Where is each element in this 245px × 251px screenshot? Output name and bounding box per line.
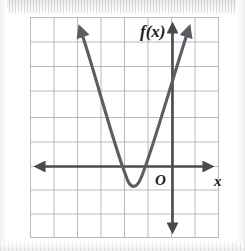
graph-figure: f(x) O x — [0, 0, 245, 251]
origin-label: O — [155, 172, 166, 188]
coordinate-plot: f(x) O x — [0, 0, 245, 251]
scan-artifact-bottom — [0, 242, 245, 251]
x-axis-label: x — [213, 173, 222, 189]
function-label: f(x) — [140, 22, 165, 41]
